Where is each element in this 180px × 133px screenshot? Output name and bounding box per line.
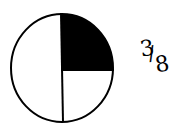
shaded-quarter	[61, 14, 113, 70]
fraction-diagram: 3 / 8	[0, 0, 180, 133]
denominator: 8	[153, 50, 171, 77]
